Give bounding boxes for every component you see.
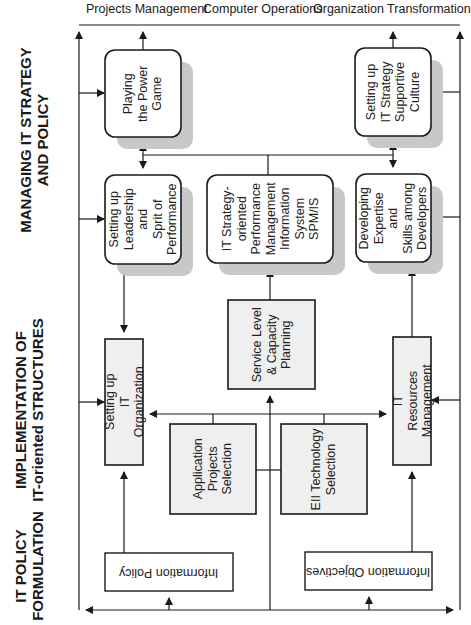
power-game-node[interactable]: Playing the Power Game (105, 50, 181, 137)
information-objectives-node[interactable]: Information Objectives (305, 552, 432, 590)
information-objectives-label: Information Objectives (306, 564, 430, 579)
it-organization-node[interactable]: Setting up IT Organization (105, 339, 143, 465)
it-resources-label: IT Resources Management (390, 365, 434, 438)
service-level-node[interactable]: Service Level & Capacity Planning (228, 300, 315, 389)
it-resources-node[interactable]: IT Resources Management (393, 337, 431, 465)
supportive-culture-node[interactable]: Setting up IT Strategy Supportive Cultur… (355, 48, 431, 136)
expertise-node[interactable]: Developing Expertise and Skills among De… (356, 174, 431, 262)
power-game-label: Playing the Power Game (121, 65, 165, 121)
spm-is-node[interactable]: IT Strategy- oriented Performance Manage… (207, 175, 333, 263)
information-policy-label: Information Policy (119, 565, 218, 580)
eii-technology-node[interactable]: EII Technology Selection (281, 424, 367, 514)
application-projects-node[interactable]: Application Projects Selection (170, 424, 256, 514)
information-policy-node[interactable]: Information Policy (105, 553, 233, 591)
it-organization-label: Setting up IT Organization (102, 367, 146, 438)
leadership-label: Setting up Leadership and Sprit of Perfo… (107, 182, 180, 258)
expertise-label: Developing Expertise and Skills among De… (357, 181, 430, 256)
spm-is-label: IT Strategy- oriented Performance Manage… (219, 183, 321, 256)
leadership-node[interactable]: Setting up Leadership and Sprit of Perfo… (105, 175, 181, 264)
eii-technology-label: EII Technology Selection (310, 428, 339, 510)
application-projects-label: Application Projects Selection (191, 438, 235, 499)
supportive-culture-label: Setting up IT Strategy Supportive Cultur… (364, 62, 422, 123)
service-level-label: Service Level & Capacity Planning (250, 307, 294, 382)
